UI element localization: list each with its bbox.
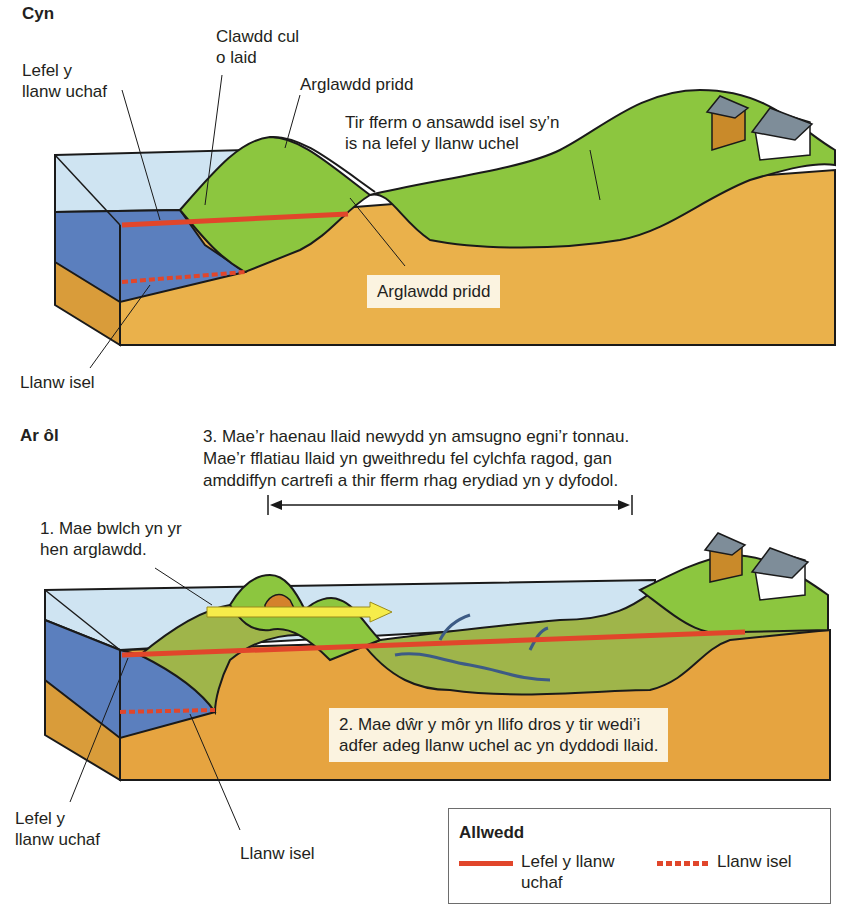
legend-item-high-tide: Lefel y llanw uchaf xyxy=(521,851,615,893)
label-low-tide-after: Llanw isel xyxy=(240,843,315,864)
legend-swatch-solid xyxy=(459,861,513,866)
legend-title: Allwedd xyxy=(459,823,524,843)
legend: Allwedd Lefel y llanw uchaf Llanw isel xyxy=(448,808,831,904)
label-high-tide-after: Lefel y llanw uchaf xyxy=(15,808,100,850)
label-step1: 1. Mae bwlch yn yr hen arglawdd. xyxy=(40,518,182,560)
legend-swatch-dashed xyxy=(657,861,711,866)
label-step3: 3. Mae’r haenau llaid newydd yn amsugno … xyxy=(203,426,629,492)
label-step2: 2. Mae dŵr y môr yn llifo dros y tir wed… xyxy=(329,708,668,762)
after-heading: Ar ôl xyxy=(20,426,59,446)
legend-item-low-tide: Llanw isel xyxy=(717,851,792,872)
